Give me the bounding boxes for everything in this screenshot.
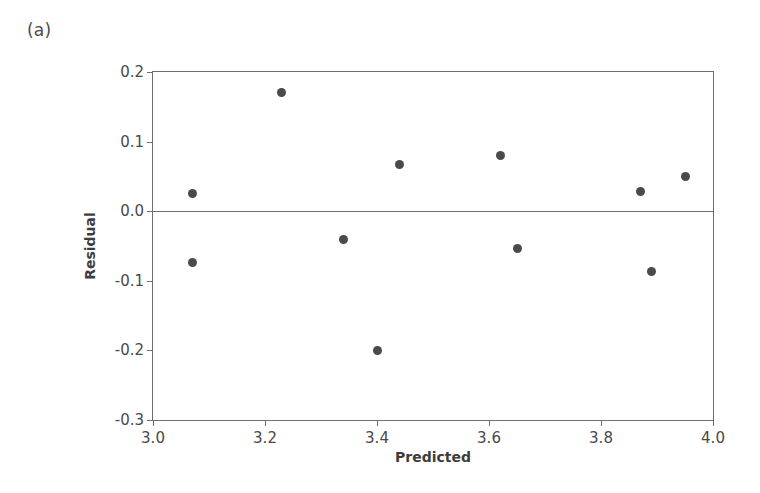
residual-plot-figure: (a) 0.20.10.0-0.1-0.2-0.3 3.03.23.43.63.… xyxy=(0,0,760,493)
data-point xyxy=(513,244,522,253)
data-point xyxy=(339,235,348,244)
data-point xyxy=(277,88,286,97)
x-tick-mark xyxy=(153,420,154,426)
x-tick-label: 3.2 xyxy=(253,429,277,447)
y-tick-label: -0.3 xyxy=(115,411,144,429)
y-tick-mark xyxy=(147,142,153,143)
y-tick-label: 0.2 xyxy=(120,63,144,81)
data-point xyxy=(636,187,645,196)
y-tick-mark xyxy=(147,72,153,73)
y-tick-label: -0.2 xyxy=(115,341,144,359)
data-point xyxy=(681,172,690,181)
x-tick-label: 4.0 xyxy=(701,429,725,447)
x-tick-mark xyxy=(265,420,266,426)
data-point xyxy=(496,151,505,160)
x-tick-label: 3.0 xyxy=(141,429,165,447)
y-tick-mark xyxy=(147,211,153,212)
data-point xyxy=(647,267,656,276)
y-axis-title: Residual xyxy=(82,212,98,280)
zero-reference-line xyxy=(153,211,713,212)
y-tick-label: 0.1 xyxy=(120,133,144,151)
y-tick-label: 0.0 xyxy=(120,202,144,220)
y-tick-label: -0.1 xyxy=(115,272,144,290)
x-tick-mark xyxy=(713,420,714,426)
x-tick-mark xyxy=(489,420,490,426)
x-tick-mark xyxy=(601,420,602,426)
data-point xyxy=(395,160,404,169)
data-point xyxy=(188,258,197,267)
y-tick-mark xyxy=(147,281,153,282)
data-point xyxy=(373,346,382,355)
x-tick-mark xyxy=(377,420,378,426)
panel-label: (a) xyxy=(27,20,51,40)
x-axis-title: Predicted xyxy=(152,449,714,465)
x-tick-label: 3.6 xyxy=(477,429,501,447)
y-tick-mark xyxy=(147,350,153,351)
x-tick-label: 3.4 xyxy=(365,429,389,447)
x-tick-label: 3.8 xyxy=(589,429,613,447)
plot-area: 0.20.10.0-0.1-0.2-0.3 3.03.23.43.63.84.0 xyxy=(152,71,714,421)
data-point xyxy=(188,189,197,198)
